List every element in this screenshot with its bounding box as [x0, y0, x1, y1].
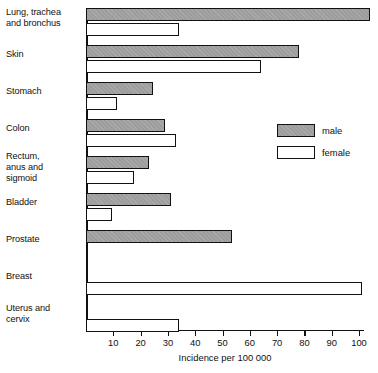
- bar-female: [86, 23, 179, 36]
- category-label: Colon: [6, 123, 86, 134]
- bar-male: [86, 82, 153, 95]
- bar-female: [86, 134, 176, 147]
- legend-swatch-female-icon: [277, 146, 315, 159]
- legend-item-male: male: [277, 124, 372, 141]
- bar-female: [86, 282, 362, 295]
- chart-legend: male female: [277, 124, 372, 168]
- category-label: Lung, trachea and bronchus: [6, 7, 86, 29]
- x-axis-tick-label: 60: [245, 337, 255, 348]
- bar-male: [86, 45, 299, 58]
- x-axis-tick-label: 40: [190, 337, 200, 348]
- legend-label-male: male: [322, 125, 342, 137]
- x-axis-tick-label: 100: [351, 337, 367, 348]
- x-axis-tick: [223, 331, 224, 336]
- legend-label-female: female: [322, 147, 350, 159]
- x-axis-tick: [250, 331, 251, 336]
- bar-female: [86, 319, 179, 332]
- bar-male: [86, 193, 171, 206]
- x-axis-tick-label: 80: [299, 337, 309, 348]
- category-label: Uterus and cervix: [6, 303, 86, 325]
- legend-item-female: female: [277, 146, 372, 163]
- x-axis-tick: [332, 331, 333, 336]
- x-axis-tick-label: 30: [163, 337, 173, 348]
- x-axis-tick: [277, 331, 278, 336]
- incidence-bar-chart: Lung, trachea and bronchusSkinStomachCol…: [0, 0, 378, 373]
- category-label: Skin: [6, 49, 86, 60]
- x-axis-tick: [195, 331, 196, 336]
- bar-male: [86, 156, 149, 169]
- x-axis-tick: [359, 331, 360, 336]
- plot-area: Incidence per 100 000 102030405060708090…: [86, 8, 372, 330]
- x-axis-tick-label: 50: [217, 337, 227, 348]
- bar-female: [86, 60, 261, 73]
- bar-female: [86, 97, 117, 110]
- x-axis-tick: [304, 331, 305, 336]
- category-label: Prostate: [6, 234, 86, 245]
- x-axis-tick-label: 10: [108, 337, 118, 348]
- bar-male: [86, 230, 232, 243]
- bar-male: [86, 119, 165, 132]
- bar-female: [86, 171, 134, 184]
- x-axis-tick-label: 20: [135, 337, 145, 348]
- category-label: Breast: [6, 271, 86, 282]
- x-axis-tick-label: 70: [272, 337, 282, 348]
- category-label: Bladder: [6, 197, 86, 208]
- bar-female: [86, 208, 112, 221]
- legend-swatch-male-icon: [277, 124, 315, 137]
- x-axis-tick-label: 90: [326, 337, 336, 348]
- category-label: Stomach: [6, 86, 86, 97]
- x-axis-title: Incidence per 100 000: [86, 352, 364, 363]
- category-label: Rectum, anus and sigmoid: [6, 151, 86, 185]
- bar-male: [86, 8, 370, 21]
- category-label-column: Lung, trachea and bronchusSkinStomachCol…: [0, 0, 86, 330]
